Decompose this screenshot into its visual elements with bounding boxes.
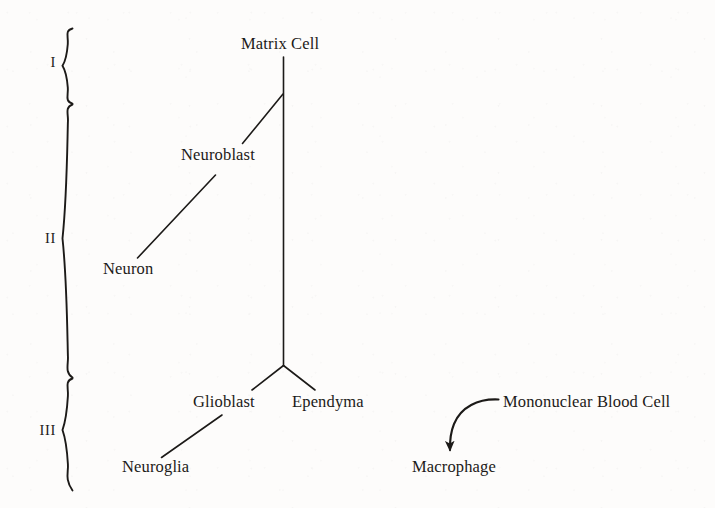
node-label-mononuclear-blood-cell: Mononuclear Blood Cell <box>503 393 670 410</box>
node-label-macrophage: Macrophage <box>412 458 496 475</box>
edge-glioblast-to-neuroglia <box>162 415 223 458</box>
edge-neuroblast-to-neuron <box>138 175 216 258</box>
node-label-neuroblast: Neuroblast <box>181 146 255 163</box>
node-label-glioblast: Glioblast <box>193 393 255 410</box>
node-label-neuroglia: Neuroglia <box>122 458 189 475</box>
node-label-neuron: Neuron <box>103 260 153 277</box>
stage-brace-III <box>63 379 73 491</box>
diagram-linework <box>0 0 715 508</box>
edge-fork-to-ependyma <box>284 366 316 391</box>
stage-label-I: I <box>32 54 56 70</box>
stage-brace-II <box>63 105 73 378</box>
stage-brace-I <box>63 29 73 104</box>
edge-blood-cell-to-macrophage <box>450 399 499 450</box>
stage-label-III: III <box>26 422 56 438</box>
figure-canvas: I II III Matrix Cell Neuroblast Neuron G… <box>0 0 715 508</box>
stage-label-II: II <box>32 230 56 246</box>
edge-matrix-to-neuroblast <box>243 94 284 144</box>
edge-fork-to-glioblast <box>252 366 284 391</box>
node-label-matrix-cell: Matrix Cell <box>241 35 319 52</box>
node-label-ependyma: Ependyma <box>292 393 364 410</box>
